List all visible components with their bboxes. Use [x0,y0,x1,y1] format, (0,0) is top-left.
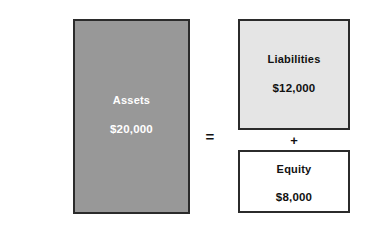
liabilities-label: Liabilities [268,54,321,65]
assets-box: Assets $20,000 [73,19,190,214]
equity-box: Equity $8,000 [238,150,350,213]
liabilities-box: Liabilities $12,000 [238,19,350,130]
accounting-equation-diagram: Assets $20,000 = Liabilities $12,000 + E… [0,0,368,225]
equals-operator: = [196,129,224,144]
assets-label: Assets [113,95,150,106]
liabilities-value: $12,000 [273,83,316,95]
plus-operator: + [280,134,308,147]
equity-value: $8,000 [276,192,312,204]
assets-value: $20,000 [110,124,153,136]
equity-label: Equity [277,164,312,175]
